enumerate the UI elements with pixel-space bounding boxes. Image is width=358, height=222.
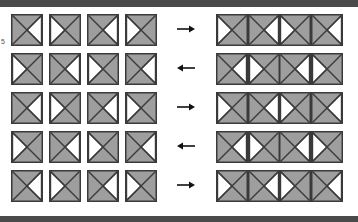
- tile-right[interactable]: [279, 170, 311, 202]
- tile-right[interactable]: [216, 92, 248, 124]
- tile-left[interactable]: [311, 170, 343, 202]
- tile-right[interactable]: [87, 53, 119, 85]
- tile-left[interactable]: [279, 53, 311, 85]
- tile-left[interactable]: [311, 14, 343, 46]
- tile-left[interactable]: [87, 14, 119, 46]
- tile-right[interactable]: [49, 14, 81, 46]
- tile-right[interactable]: [216, 14, 248, 46]
- tile-right[interactable]: [279, 14, 311, 46]
- tile-right[interactable]: [125, 92, 157, 124]
- tile-right[interactable]: [49, 170, 81, 202]
- tile-right[interactable]: [248, 131, 280, 163]
- top-rule: [0, 0, 358, 7]
- left-arrow: [176, 62, 196, 76]
- figure-canvas: 5: [0, 0, 358, 222]
- tile-left[interactable]: [216, 53, 248, 85]
- right-arrow: [176, 23, 196, 37]
- edge-label: 5: [1, 38, 5, 45]
- tile-right[interactable]: [248, 53, 280, 85]
- tile-left[interactable]: [125, 53, 157, 85]
- bottom-rule: [0, 216, 358, 222]
- tile-left[interactable]: [49, 131, 81, 163]
- tile-right[interactable]: [11, 53, 43, 85]
- tile-right[interactable]: [125, 170, 157, 202]
- tile-left[interactable]: [279, 131, 311, 163]
- tile-right[interactable]: [311, 53, 343, 85]
- tile-right[interactable]: [11, 131, 43, 163]
- tile-left[interactable]: [248, 92, 280, 124]
- tile-right[interactable]: [216, 170, 248, 202]
- tile-right[interactable]: [49, 92, 81, 124]
- tile-left[interactable]: [49, 53, 81, 85]
- tile-right[interactable]: [87, 131, 119, 163]
- right-arrow: [176, 101, 196, 115]
- tile-left[interactable]: [87, 92, 119, 124]
- tile-left[interactable]: [11, 92, 43, 124]
- tile-left[interactable]: [11, 14, 43, 46]
- tile-right[interactable]: [279, 92, 311, 124]
- right-arrow: [176, 179, 196, 193]
- tile-right[interactable]: [311, 131, 343, 163]
- tile-left[interactable]: [11, 170, 43, 202]
- tile-right[interactable]: [125, 14, 157, 46]
- tile-left[interactable]: [87, 170, 119, 202]
- tile-left[interactable]: [248, 170, 280, 202]
- tile-left[interactable]: [216, 131, 248, 163]
- tile-left[interactable]: [248, 14, 280, 46]
- tile-left[interactable]: [311, 92, 343, 124]
- left-arrow: [176, 140, 196, 154]
- tile-left[interactable]: [125, 131, 157, 163]
